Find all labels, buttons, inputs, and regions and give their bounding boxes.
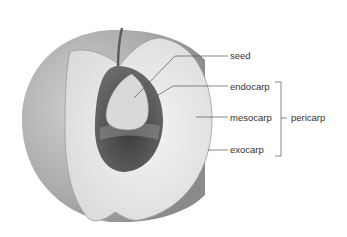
label-mesocarp: mesocarp — [230, 112, 272, 123]
label-seed: seed — [230, 50, 251, 61]
label-pericarp: pericarp — [291, 112, 325, 123]
label-exocarp: exocarp — [230, 144, 264, 155]
pericarp-bracket — [275, 82, 281, 156]
label-endocarp: endocarp — [230, 81, 270, 92]
